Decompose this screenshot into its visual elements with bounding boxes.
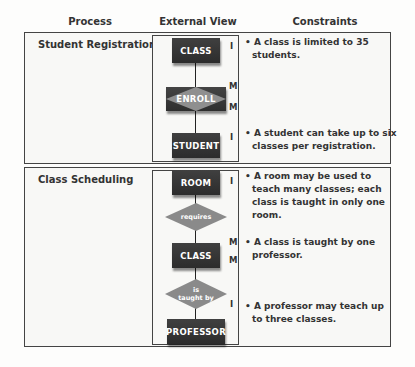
external-view-box: ROOM requires CLASS is taught by PROFESS… (152, 170, 239, 345)
relationship-requires: requires (165, 203, 227, 231)
header-external-view: External View (158, 16, 238, 27)
section-class-scheduling: Class Scheduling ROOM requires CLASS is … (24, 167, 391, 347)
entity-class: CLASS (172, 38, 220, 63)
entity-class: CLASS (172, 243, 220, 268)
associative-entity-enroll: ENROLL (166, 87, 226, 111)
relationship-label: requires (165, 203, 227, 231)
cardinality-class: I (230, 41, 233, 51)
process-label: Student Registration (38, 39, 156, 50)
cardinality-enroll-bottom: M (229, 102, 237, 112)
cardinality-class-bottom: M (229, 255, 237, 265)
cardinality-class-top: M (229, 237, 237, 247)
entity-student: STUDENT (172, 133, 220, 158)
relationship-label: is taught by (165, 279, 227, 309)
cardinality-student: I (230, 132, 233, 142)
constraint-item: • A professor may teach up to three clas… (245, 300, 397, 326)
entity-professor: PROFESSOR (167, 319, 225, 344)
relationship-label-line2: taught by (178, 294, 214, 302)
external-view-box: CLASS ENROLL STUDENT I M M I (152, 35, 239, 162)
constraint-item: • A student can take up to six classes p… (245, 127, 397, 153)
cardinality-professor: I (230, 299, 233, 309)
header-process: Process (55, 16, 125, 27)
associative-label: ENROLL (166, 87, 226, 111)
process-label: Class Scheduling (38, 174, 133, 185)
header-constraints: Constraints (285, 16, 365, 27)
entity-room: ROOM (172, 170, 220, 195)
relationship-taught-by: is taught by (165, 279, 227, 309)
section-student-registration: Student Registration CLASS ENROLL STUDEN… (24, 32, 391, 164)
cardinality-room: I (230, 176, 233, 186)
constraint-item: • A class is limited to 35 students. (245, 36, 397, 62)
relationship-label-line1: is (193, 286, 199, 294)
constraint-item: • A room may be used to teach many class… (245, 170, 397, 222)
cardinality-enroll-top: M (229, 81, 237, 91)
constraint-item: • A class is taught by one professor. (245, 236, 397, 262)
